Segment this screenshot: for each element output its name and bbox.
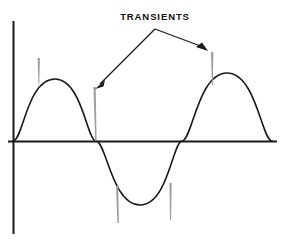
transients-label: TRANSIENTS: [120, 11, 190, 22]
figure-background: [0, 0, 292, 242]
waveform-diagram-canvas: TRANSIENTS: [0, 0, 292, 242]
transients-waveform-figure: TRANSIENTS: [0, 0, 292, 242]
